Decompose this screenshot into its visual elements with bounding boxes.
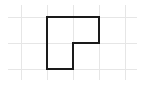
grid-diagram	[0, 0, 145, 85]
diagram-canvas	[0, 0, 145, 85]
